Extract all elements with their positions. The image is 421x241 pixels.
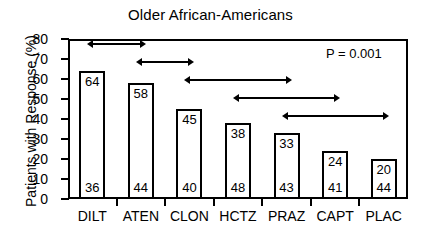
x-tick-mark xyxy=(116,199,118,206)
significance-arrow-dilt-aten xyxy=(87,40,146,49)
bar-count-label: 44 xyxy=(130,181,152,194)
x-tick-mark xyxy=(261,199,263,206)
arrowhead-right-icon xyxy=(334,94,340,102)
y-tick-mark xyxy=(61,78,69,80)
x-tick-label-plac: PLAC xyxy=(354,208,414,224)
bar-praz: 3343 xyxy=(274,133,300,199)
x-tick-mark xyxy=(310,199,312,206)
y-tick-mark xyxy=(61,158,69,160)
bar-value-label: 64 xyxy=(81,75,103,88)
arrow-shaft xyxy=(91,43,142,45)
bar-value-label: 38 xyxy=(227,127,249,140)
arrow-shaft xyxy=(188,79,287,81)
y-tick-label: 70 xyxy=(14,52,48,66)
arrowhead-right-icon xyxy=(188,58,194,66)
x-tick-mark xyxy=(164,199,166,206)
x-tick-mark xyxy=(213,199,215,206)
bar-count-label: 41 xyxy=(324,181,346,194)
bar-value-label: 45 xyxy=(178,113,200,126)
p-value-annotation: P = 0.001 xyxy=(326,46,382,61)
arrow-shaft xyxy=(237,97,336,99)
bar-aten: 5844 xyxy=(128,83,154,199)
x-tick-mark xyxy=(358,199,360,206)
arrowhead-right-icon xyxy=(286,76,292,84)
arrow-shaft xyxy=(140,61,191,63)
y-tick-label: 0 xyxy=(14,192,48,206)
bar-value-label: 20 xyxy=(373,163,395,176)
y-tick-mark xyxy=(61,38,69,40)
significance-arrow-aten-clon xyxy=(136,58,195,67)
arrow-shaft xyxy=(286,115,385,117)
significance-arrow-praz-plac xyxy=(282,112,389,121)
y-tick-mark xyxy=(61,198,69,200)
bar-value-label: 33 xyxy=(276,137,298,150)
bar-count-label: 48 xyxy=(227,181,249,194)
bar-count-label: 40 xyxy=(178,181,200,194)
bar-capt: 2441 xyxy=(322,151,348,199)
y-tick-mark xyxy=(61,138,69,140)
y-tick-mark xyxy=(61,178,69,180)
y-tick-label: 60 xyxy=(14,72,48,86)
y-tick-label: 50 xyxy=(14,92,48,106)
y-tick-mark xyxy=(61,98,69,100)
bar-hctz: 3848 xyxy=(225,123,251,199)
chart-container: Older African-Americans Patients with Re… xyxy=(0,0,421,241)
arrowhead-right-icon xyxy=(383,112,389,120)
y-tick-mark xyxy=(61,58,69,60)
bar-plac: 2044 xyxy=(371,159,397,199)
significance-arrow-clon-praz xyxy=(184,76,291,85)
arrowhead-right-icon xyxy=(140,40,146,48)
bar-count-label: 44 xyxy=(373,181,395,194)
bar-count-label: 36 xyxy=(81,181,103,194)
bar-count-label: 43 xyxy=(276,181,298,194)
y-tick-label: 80 xyxy=(14,32,48,46)
chart-title: Older African-Americans xyxy=(0,6,421,23)
y-tick-label: 10 xyxy=(14,172,48,186)
y-tick-label: 40 xyxy=(14,112,48,126)
bar-dilt: 6436 xyxy=(79,71,105,199)
y-tick-label: 20 xyxy=(14,152,48,166)
bar-clon: 4540 xyxy=(176,109,202,199)
bar-value-label: 24 xyxy=(324,155,346,168)
y-tick-mark xyxy=(61,118,69,120)
significance-arrow-hctz-capt xyxy=(233,94,340,103)
y-tick-label: 30 xyxy=(14,132,48,146)
bar-value-label: 58 xyxy=(130,87,152,100)
